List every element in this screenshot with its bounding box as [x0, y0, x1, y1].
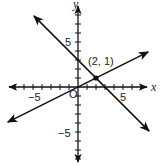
x-tick-label-5: 5 — [120, 91, 126, 103]
intersection-point — [93, 75, 98, 80]
origin-label: O — [69, 88, 78, 100]
y-tick-label-neg5: −5 — [58, 127, 71, 139]
y-tick-label-5: 5 — [65, 36, 71, 48]
intersection-label: (2, 1) — [88, 55, 114, 67]
x-tick-label-neg5: −5 — [28, 91, 41, 103]
line-y-eq-neg-x-plus-3 — [34, 16, 149, 131]
y-axis-label: y — [72, 0, 79, 11]
coordinate-plane: y x −5 5 5 −5 O (2, 1) — [0, 0, 160, 165]
x-axis-label: x — [150, 80, 157, 94]
